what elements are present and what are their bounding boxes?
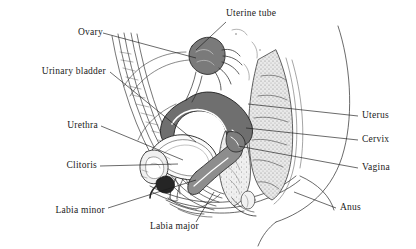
leader-ovary (103, 33, 196, 58)
label-urinary-bladder: Urinary bladder (0, 66, 106, 77)
label-clitoris: Clitoris (0, 160, 97, 171)
label-labia-minor: Labia minor (0, 205, 105, 216)
label-vagina: Vagina (362, 162, 390, 173)
label-urethra: Urethra (0, 120, 98, 131)
label-anus: Anus (340, 202, 361, 213)
broad-ligament (124, 52, 189, 140)
labia (168, 194, 220, 217)
label-labia-major: Labia major (150, 221, 199, 232)
anatomy-figure: Ovary Urinary bladder Urethra Clitoris L… (0, 0, 416, 249)
label-ovary: Ovary (0, 27, 103, 38)
label-uterus: Uterus (362, 110, 389, 121)
label-cervix: Cervix (362, 134, 389, 145)
label-uterine-tube: Uterine tube (226, 8, 276, 19)
sacrum-coccyx (249, 50, 293, 200)
